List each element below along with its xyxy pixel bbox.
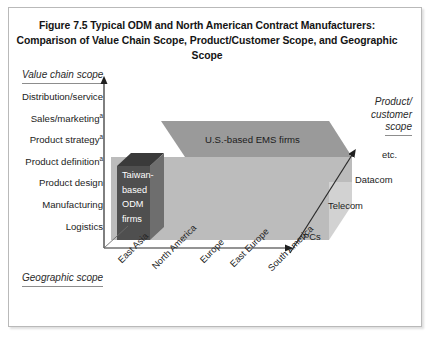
three-axis-diagram bbox=[0, 0, 432, 342]
ems-box-label: U.S.-based EMS firms bbox=[205, 134, 300, 145]
odm-box-label-line-2: based bbox=[122, 183, 166, 198]
product-customer-tick-telecom: Telecom bbox=[328, 200, 363, 211]
odm-box-label: Taiwan- based ODM firms bbox=[122, 168, 166, 226]
product-customer-tick-etc: etc. bbox=[382, 149, 397, 160]
odm-box-label-line-1: Taiwan- bbox=[122, 168, 166, 183]
product-customer-tick-datacom: Datacom bbox=[355, 174, 393, 185]
ems-box-lower-end-face bbox=[329, 182, 352, 240]
product-customer-tick-pcs: PCs bbox=[303, 231, 321, 242]
odm-box-label-line-3: ODM bbox=[122, 197, 166, 212]
odm-box-label-line-4: firms bbox=[122, 212, 166, 227]
